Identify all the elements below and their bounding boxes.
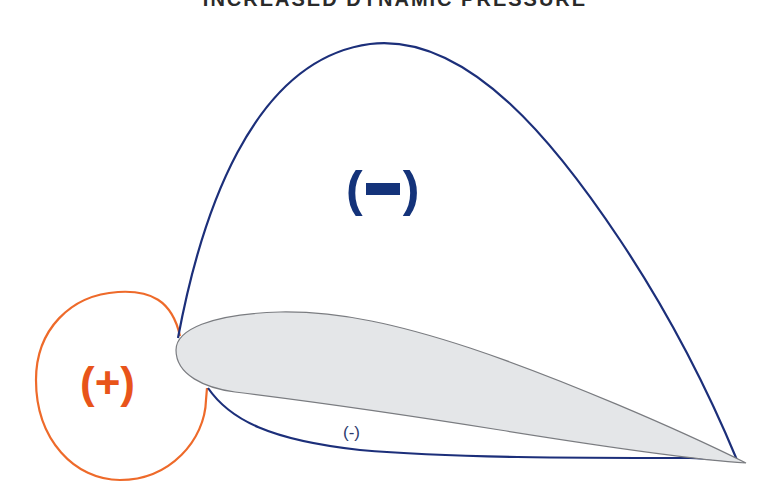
- lower-negative-pressure-label: (-): [343, 423, 360, 443]
- minus-sign-icon: [366, 183, 400, 195]
- airfoil: [176, 312, 746, 463]
- upper-negative-pressure-label: (): [346, 160, 419, 218]
- leading-edge-positive-pressure-label: (+): [80, 358, 135, 408]
- pressure-distribution-diagram: [0, 0, 776, 502]
